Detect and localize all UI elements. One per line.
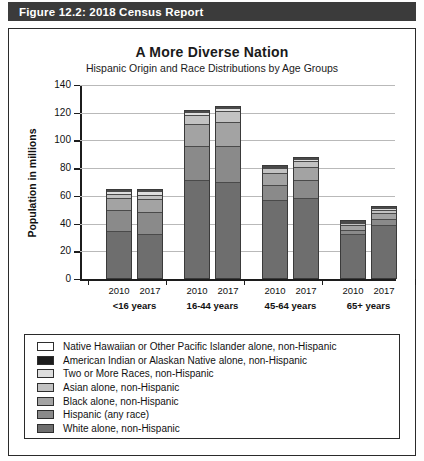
plot-area (80, 85, 395, 279)
bar-segment (293, 167, 319, 180)
bar-segment (184, 146, 210, 179)
bar-segment (215, 182, 241, 279)
bar-segment (184, 115, 210, 124)
x-group-tick (415, 279, 416, 285)
stacked-bar (215, 106, 241, 279)
bar-segment (340, 234, 366, 279)
legend-item-label: Two or More Races, non-Hispanic (63, 368, 214, 379)
bar-segment (184, 180, 210, 279)
legend-item[interactable]: Native Hawaiian or Other Pacific Islande… (37, 340, 399, 354)
bar-segment (106, 210, 132, 231)
figure-header-label: Figure 12.2: 2018 Census Report (19, 6, 204, 18)
bar-segment (371, 225, 397, 279)
legend-item[interactable]: Hispanic (any race) (37, 408, 399, 422)
gridline (80, 85, 395, 86)
chart-title: A More Diverse Nation (9, 44, 415, 60)
x-group-tick (322, 279, 323, 285)
legend-item-label: Hispanic (any race) (63, 409, 149, 420)
y-tick-label-text: 100 (27, 134, 71, 145)
bar-segment (137, 234, 163, 279)
legend-swatch-icon (37, 424, 54, 433)
stacked-bar (340, 220, 366, 279)
stacked-bar (262, 165, 288, 279)
stacked-bar (184, 110, 210, 279)
stacked-bar (371, 206, 397, 279)
x-group-tick (88, 279, 89, 285)
bar-segment (106, 198, 132, 210)
x-group-label: 65+ years (314, 300, 424, 311)
y-tick-mark (74, 279, 81, 280)
legend-item-label: White alone, non-Hispanic (63, 423, 180, 434)
bar-segment (262, 200, 288, 279)
legend-swatch-icon (37, 342, 54, 351)
bar-segment (262, 173, 288, 185)
legend-item[interactable]: American Indian or Alaskan Native alone,… (37, 354, 399, 368)
bar-segment (215, 122, 241, 146)
y-tick-label-text: 0 (27, 273, 71, 284)
x-year-label: 2017 (128, 285, 172, 296)
legend-item-label: Native Hawaiian or Other Pacific Islande… (63, 341, 336, 352)
bar-segment (106, 231, 132, 279)
bar-segment (215, 146, 241, 183)
bar-segment (137, 199, 163, 212)
legend-item-label: American Indian or Alaskan Native alone,… (63, 355, 307, 366)
legend-item[interactable]: Two or More Races, non-Hispanic (37, 367, 399, 381)
y-tick-label-text: 80 (27, 162, 71, 173)
figure-header-bar: Figure 12.2: 2018 Census Report (8, 2, 416, 21)
figure-page: Figure 12.2: 2018 Census Report A More D… (0, 0, 424, 461)
y-tick-label-text: 20 (27, 245, 71, 256)
legend-item-label: Asian alone, non-Hispanic (63, 382, 179, 393)
stacked-bar (293, 157, 319, 279)
y-tick-label-text: 120 (27, 107, 71, 118)
legend-swatch-icon (37, 356, 54, 365)
legend-swatch-icon (37, 410, 54, 419)
x-year-label: 2017 (284, 285, 328, 296)
legend-item[interactable]: Asian alone, non-Hispanic (37, 381, 399, 395)
x-axis-line (80, 279, 396, 281)
x-year-label: 2017 (362, 285, 406, 296)
x-group-tick (166, 279, 167, 285)
legend-swatch-icon (37, 383, 54, 392)
bar-segment (184, 124, 210, 147)
x-year-label: 2017 (206, 285, 250, 296)
legend-item[interactable]: White alone, non-Hispanic (37, 422, 399, 436)
bar-segment (262, 185, 288, 200)
legend-swatch-icon (37, 369, 54, 378)
bar-segment (293, 180, 319, 199)
y-tick-label-text: 140 (27, 79, 71, 90)
y-tick-label-text: 60 (27, 190, 71, 201)
chart-legend: Native Hawaiian or Other Pacific Islande… (24, 334, 400, 439)
stacked-bar (106, 189, 132, 279)
figure-frame: A More Diverse Nation Hispanic Origin an… (8, 28, 416, 456)
x-group-tick (244, 279, 245, 285)
legend-item[interactable]: Black alone, non-Hispanic (37, 394, 399, 408)
plot-wrapper: Population in millions 02040608010012014… (9, 81, 417, 321)
y-axis-title: Population in millions (26, 98, 38, 268)
bar-segment (137, 212, 163, 233)
bar-segment (293, 198, 319, 279)
bar-segment (215, 111, 241, 121)
legend-swatch-icon (37, 397, 54, 406)
legend-item-label: Black alone, non-Hispanic (63, 396, 179, 407)
stacked-bar (137, 189, 163, 279)
y-tick-label-text: 40 (27, 218, 71, 229)
chart-subtitle: Hispanic Origin and Race Distributions b… (9, 62, 415, 74)
